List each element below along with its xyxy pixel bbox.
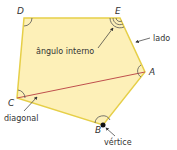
- vertex-dot: [101, 123, 106, 128]
- label-diagonal: diagonal: [4, 114, 38, 123]
- vertex-label-e: E: [115, 6, 121, 16]
- pentagon-shape: [17, 18, 145, 125]
- vertex-label-a: A: [148, 67, 155, 77]
- pentagon-diagram: D E A B C ângulo interno lado diagonal v…: [0, 0, 177, 150]
- label-vertex: vértice: [104, 137, 132, 147]
- label-side: lado: [153, 34, 170, 43]
- label-interior-angle: ângulo interno: [36, 47, 94, 56]
- arrow-side: [136, 38, 150, 42]
- vertex-label-c: C: [8, 98, 15, 108]
- vertex-label-d: D: [17, 6, 24, 16]
- arrow-vertex: [106, 128, 115, 136]
- vertex-label-b: B: [95, 125, 101, 135]
